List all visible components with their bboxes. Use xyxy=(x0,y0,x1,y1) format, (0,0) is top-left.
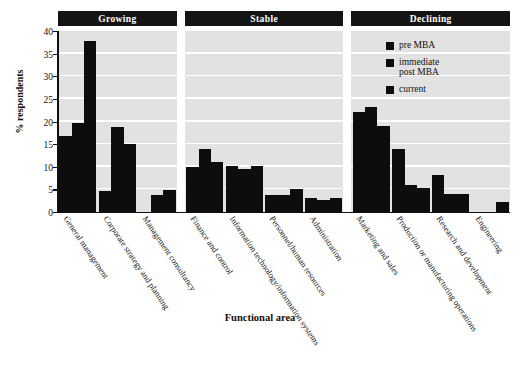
x-tick-label: Finance and control xyxy=(189,214,235,276)
bar xyxy=(305,198,317,212)
bar xyxy=(226,166,238,212)
y-tick-mark xyxy=(53,144,57,145)
legend-label: pre MBA xyxy=(399,40,435,51)
gridline xyxy=(58,52,510,54)
gridline xyxy=(58,120,510,122)
bar xyxy=(377,126,389,212)
bar xyxy=(432,175,444,212)
bar xyxy=(496,202,508,212)
panel-separator xyxy=(177,31,185,212)
bar xyxy=(278,195,290,212)
x-tick-label: Administration xyxy=(307,214,344,263)
bar xyxy=(163,190,175,212)
y-tick-mark xyxy=(53,189,57,190)
bar xyxy=(84,41,96,212)
chart-figure: GrowingStableDeclining % respondents 051… xyxy=(0,0,520,366)
bar xyxy=(72,123,84,212)
legend-label: current xyxy=(399,84,426,95)
y-tick-label: 25 xyxy=(33,95,53,105)
bar xyxy=(59,136,71,212)
y-tick-label: 10 xyxy=(33,163,53,173)
legend-item: pre MBA xyxy=(386,40,439,51)
y-tick-mark xyxy=(53,99,57,100)
group-band-label: Growing xyxy=(98,14,137,24)
y-tick-mark xyxy=(53,212,57,213)
y-tick-mark xyxy=(53,167,57,168)
plot-area xyxy=(58,31,510,212)
group-band-stable: Stable xyxy=(185,11,344,26)
y-axis-title: % respondents xyxy=(14,42,25,162)
y-tick-label: 0 xyxy=(33,208,53,218)
legend: pre MBAimmediate post MBAcurrent xyxy=(386,40,439,100)
bar xyxy=(457,194,469,212)
bar xyxy=(186,167,198,212)
y-axis-line xyxy=(57,31,59,213)
bar xyxy=(417,188,429,212)
y-tick-label: 35 xyxy=(33,50,53,60)
y-tick-mark xyxy=(53,122,57,123)
bar xyxy=(405,185,417,212)
x-tick-label: Marketing and sales xyxy=(355,214,402,277)
bar xyxy=(251,166,263,212)
legend-label: immediate post MBA xyxy=(399,57,439,78)
bar xyxy=(211,162,223,212)
gridline xyxy=(58,75,510,77)
bar xyxy=(317,200,329,212)
x-tick-label: Engineering xyxy=(474,214,506,254)
legend-item: current xyxy=(386,84,439,95)
bar xyxy=(365,107,377,212)
legend-item: immediate post MBA xyxy=(386,57,439,78)
bar xyxy=(199,149,211,212)
legend-swatch xyxy=(386,86,394,94)
x-tick-label: General management xyxy=(62,214,111,280)
bar xyxy=(99,191,111,212)
y-tick-label: 5 xyxy=(33,185,53,195)
bar xyxy=(353,112,365,212)
legend-swatch xyxy=(386,42,394,50)
group-band-label: Declining xyxy=(410,14,452,24)
y-tick-label: 15 xyxy=(33,140,53,150)
x-tick-label: Corporate strategy and planning xyxy=(101,214,171,311)
group-band-growing: Growing xyxy=(58,11,177,26)
gridline xyxy=(58,97,510,99)
y-tick-mark xyxy=(53,76,57,77)
gridline xyxy=(58,30,510,32)
bar xyxy=(111,127,123,212)
bar xyxy=(238,169,250,212)
y-tick-mark xyxy=(53,54,57,55)
y-tick-label: 40 xyxy=(33,27,53,37)
x-axis-line xyxy=(57,212,510,214)
bar xyxy=(124,144,136,212)
y-axis-ticks: 0510152025303540 xyxy=(28,31,53,212)
x-axis-title: Functional area xyxy=(0,312,520,323)
bar xyxy=(151,195,163,212)
bar xyxy=(392,149,404,212)
bar xyxy=(265,195,277,212)
bar xyxy=(290,189,302,212)
bar xyxy=(444,194,456,212)
legend-swatch xyxy=(386,59,394,67)
group-band-label: Stable xyxy=(250,14,278,24)
y-tick-mark xyxy=(53,31,57,32)
y-tick-label: 30 xyxy=(33,72,53,82)
bar xyxy=(330,198,342,212)
panel-separator xyxy=(343,31,351,212)
group-band-declining: Declining xyxy=(351,11,510,26)
y-tick-label: 20 xyxy=(33,118,53,128)
